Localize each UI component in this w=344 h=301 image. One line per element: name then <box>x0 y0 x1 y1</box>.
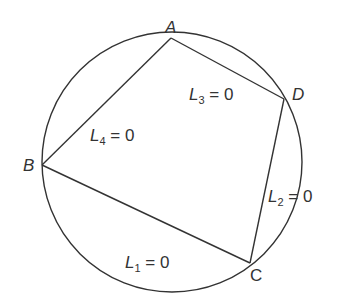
point-label-a: A <box>164 18 176 37</box>
equation-L2: L2 = 0 <box>268 187 312 208</box>
point-label-d: D <box>292 85 304 104</box>
equation-L3: L3 = 0 <box>189 85 233 106</box>
line-L1-BC <box>42 165 250 263</box>
cyclic-quadrilateral-diagram: A B C D L1 = 0 L2 = 0 L3 = 0 L4 = 0 <box>0 0 344 301</box>
equation-L1: L1 = 0 <box>125 253 169 274</box>
circumcircle <box>42 32 302 292</box>
equation-L4: L4 = 0 <box>90 126 134 147</box>
point-label-c: C <box>250 266 262 285</box>
line-L4-AB <box>42 38 171 165</box>
line-L2-CD <box>250 99 284 263</box>
point-label-b: B <box>23 156 34 175</box>
